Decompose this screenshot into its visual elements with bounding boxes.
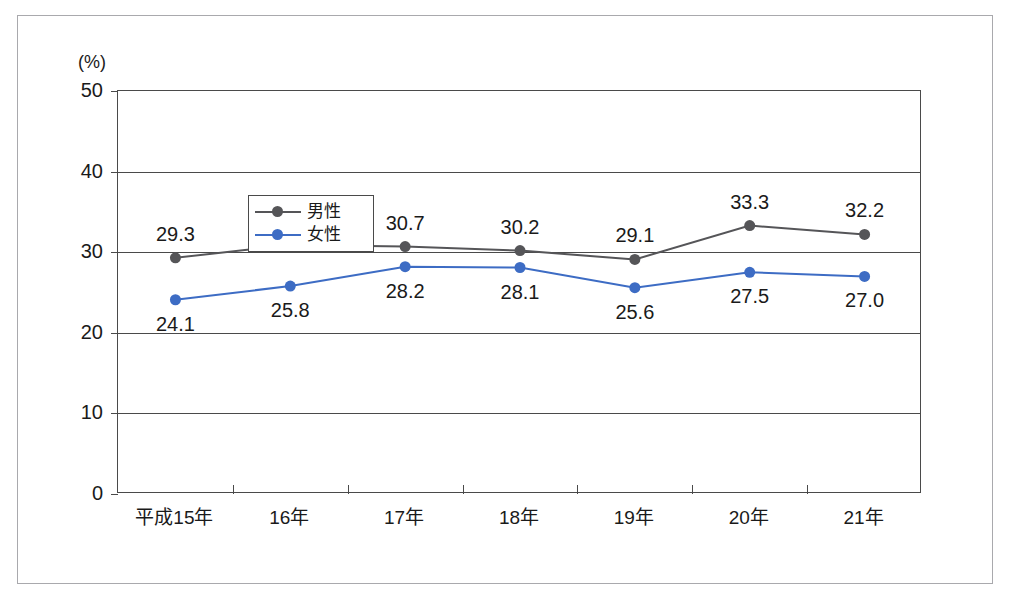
data-point-女性-6 [859,271,870,282]
data-label-女性-2: 28.2 [368,281,442,302]
y-axis-label-30: 30 [57,241,103,261]
data-point-女性-5 [744,267,755,278]
y-axis-label-20: 20 [57,322,103,342]
data-point-女性-4 [629,282,640,293]
data-label-男性-3: 30.2 [483,217,557,238]
legend-label-male: 男性 [307,203,341,221]
x-axis-label-1: 16年 [232,508,347,528]
data-point-女性-0 [170,294,181,305]
y-tick-10 [111,413,118,414]
y-tick-0 [111,494,118,495]
x-axis-label-6: 21年 [806,508,921,528]
data-label-女性-1: 25.8 [253,300,327,321]
data-label-女性-4: 25.6 [598,302,672,323]
data-point-女性-2 [400,261,411,272]
y-axis-label-40: 40 [57,161,103,181]
data-point-男性-5 [744,220,755,231]
legend-swatch-female [255,228,301,242]
y-axis-label-50: 50 [57,80,103,100]
legend-swatch-male [255,205,301,219]
legend: 男性 女性 [248,195,374,252]
chart-page: (%) 50403020100 平成15年16年17年18年19年20年21年 … [0,0,1010,597]
y-axis-label-0: 0 [57,483,103,503]
data-point-女性-1 [285,281,296,292]
x-axis-label-3: 18年 [462,508,577,528]
data-point-男性-2 [400,241,411,252]
data-label-女性-0: 24.1 [138,314,212,335]
legend-item-male: 男性 [249,200,373,223]
data-point-男性-6 [859,229,870,240]
data-label-男性-5: 33.3 [713,192,787,213]
x-axis-label-4: 19年 [576,508,691,528]
legend-item-female: 女性 [249,223,373,246]
data-label-男性-2: 30.7 [368,213,442,234]
y-tick-40 [111,172,118,173]
data-point-男性-3 [515,245,526,256]
data-point-男性-0 [170,252,181,263]
y-tick-30 [111,252,118,253]
data-label-女性-6: 27.0 [828,290,902,311]
data-label-男性-6: 32.2 [828,200,902,221]
legend-label-female: 女性 [307,226,341,244]
y-axis-label-10: 10 [57,402,103,422]
legend-marker-male [272,206,283,217]
x-axis-label-2: 17年 [347,508,462,528]
legend-marker-female [272,229,283,240]
data-label-女性-5: 27.5 [713,286,787,307]
data-label-男性-0: 29.3 [138,224,212,245]
y-tick-50 [111,91,118,92]
y-tick-20 [111,333,118,334]
data-point-男性-4 [629,254,640,265]
x-axis-label-5: 20年 [691,508,806,528]
y-axis-unit-label: (%) [78,52,106,72]
data-label-女性-3: 28.1 [483,282,557,303]
plot-area: 29.330.930.730.229.133.332.224.125.828.2… [117,90,921,493]
data-label-男性-4: 29.1 [598,225,672,246]
x-axis-label-0: 平成15年 [117,508,232,528]
data-point-女性-3 [515,262,526,273]
